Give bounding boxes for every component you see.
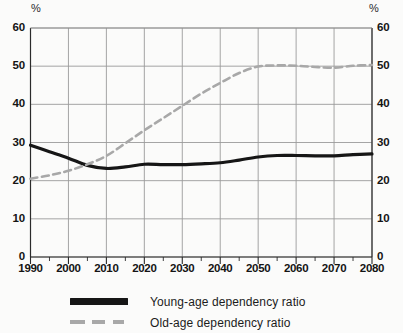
- y-tick-left-60: 60: [3, 21, 25, 33]
- y-tick-left-40: 40: [3, 97, 25, 109]
- y-tick-right-30: 30: [377, 136, 399, 148]
- x-tick-2000: 2000: [48, 262, 88, 274]
- y-tick-right-10: 10: [377, 212, 399, 224]
- y-tick-left-20: 20: [3, 174, 25, 186]
- data-series-layer: [31, 65, 373, 179]
- x-tick-2040: 2040: [200, 262, 240, 274]
- x-tick-2080: 2080: [352, 262, 392, 274]
- y-tick-left-50: 50: [3, 59, 25, 71]
- y-tick-right-0: 0: [377, 250, 399, 262]
- y-tick-right-60: 60: [377, 21, 399, 33]
- x-tick-2060: 2060: [276, 262, 316, 274]
- y-tick-left-0: 0: [3, 250, 25, 262]
- legend-swatch-young-age: [70, 298, 128, 305]
- plot-area: [0, 0, 403, 333]
- y-tick-right-50: 50: [377, 59, 399, 71]
- x-tick-2050: 2050: [238, 262, 278, 274]
- series-line-young-age: [31, 145, 373, 168]
- x-tick-2010: 2010: [86, 262, 126, 274]
- dependency-ratio-chart: % % 0102030405060 0102030405060 19902000…: [0, 0, 403, 333]
- horizontal-gridlines: [31, 28, 373, 257]
- x-tick-2020: 2020: [124, 262, 164, 274]
- legend-label-young-age: Young-age dependency ratio: [150, 295, 306, 309]
- y-tick-right-40: 40: [377, 97, 399, 109]
- y-tick-right-20: 20: [377, 174, 399, 186]
- legend-swatch-old-age: [70, 320, 128, 324]
- x-tick-2030: 2030: [162, 262, 202, 274]
- x-tick-2070: 2070: [314, 262, 354, 274]
- series-line-old-age: [31, 65, 373, 179]
- legend-label-old-age: Old-age dependency ratio: [150, 316, 291, 330]
- y-tick-left-30: 30: [3, 136, 25, 148]
- y-tick-left-10: 10: [3, 212, 25, 224]
- x-tick-1990: 1990: [11, 262, 51, 274]
